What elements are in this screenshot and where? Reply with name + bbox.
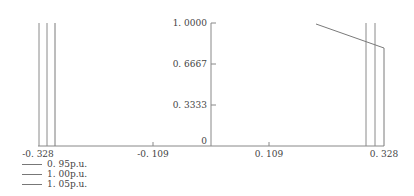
x-tick-label: -0. 109 [137,149,169,159]
legend-line-icon [22,174,42,175]
y-tick-label: 0. 3333 [173,100,208,110]
x-tick-label: -0. 328 [22,149,54,159]
legend-item: 1. 00p.u. [22,169,87,179]
y-tick-label: 0. 6667 [173,59,208,69]
y-tick-label: 0 [201,136,207,146]
legend-item: 0. 95p.u. [22,159,87,169]
y-tick-label: 1. 0000 [173,18,208,28]
legend: 0. 95p.u. 1. 00p.u. 1. 05p.u. [22,159,87,189]
legend-line-icon [22,184,42,185]
x-tick-label: 0. 328 [370,149,399,159]
legend-item: 1. 05p.u. [22,179,87,189]
legend-line-icon [22,164,42,165]
series-0-95pu [39,23,366,146]
x-tick-label: 0. 109 [255,149,284,159]
legend-label: 1. 05p.u. [47,179,87,190]
series-1-05pu [55,23,384,146]
